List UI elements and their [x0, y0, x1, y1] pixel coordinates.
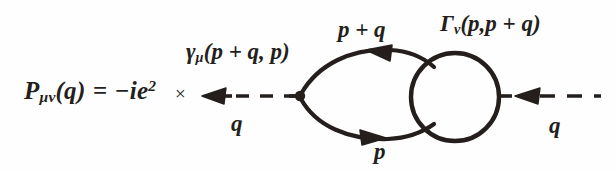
multiplication-sign: × [175, 84, 186, 103]
upper-fermion-arrowhead [366, 45, 392, 61]
dressed-vertex-symbol: Γ [440, 11, 454, 36]
equation-coefficient-exponent: 2 [148, 77, 156, 94]
bare-vertex-symbol: γ [186, 39, 196, 64]
upper-fermion-momentum-label: p + q [338, 18, 386, 41]
equation-subscript: μν [40, 88, 56, 105]
lower-fermion-momentum-label: p [374, 140, 386, 163]
equation-left-hand-side: Pμν(q)=−ie2 [24, 78, 156, 105]
left-photon-momentum-label: q [231, 112, 243, 135]
dressed-vertex-label: Γν(p,p + q) [440, 12, 541, 36]
equation-symbol: P [24, 77, 40, 104]
bare-vertex-argument: (p + q, p) [204, 39, 290, 64]
bare-vertex-subscript: μ [196, 49, 204, 65]
dressed-vertex-blob [411, 53, 499, 141]
bare-vertex-label: γμ(p + q, p) [186, 40, 290, 64]
equation-coefficient-sign: − [115, 77, 130, 104]
dressed-vertex-argument: (p,p + q) [460, 11, 540, 36]
equation-coefficient-body: ie [130, 77, 149, 104]
equation-argument: (q) [55, 77, 85, 104]
equation-equals: = [93, 77, 108, 104]
right-photon-momentum-label: q [549, 114, 561, 137]
figure-canvas: Pμν(q)=−ie2 × γμ(p + q, p) Γν(p,p + q) p… [0, 0, 616, 171]
right-photon-arrowhead [515, 88, 540, 104]
